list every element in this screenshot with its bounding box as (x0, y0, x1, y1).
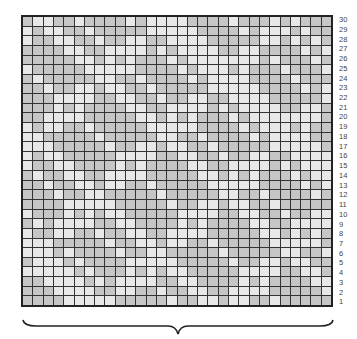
chart-cell (260, 84, 269, 93)
chart-cell (54, 200, 63, 209)
chart-cell (229, 210, 238, 219)
chart-cell (136, 133, 145, 142)
chart-cell (23, 248, 32, 257)
chart-cell (239, 200, 248, 209)
chart-cell (126, 65, 135, 74)
chart-cell (322, 258, 331, 267)
chart-cell (301, 104, 310, 113)
chart-cell (322, 181, 331, 190)
chart-cell (23, 210, 32, 219)
chart-cell (136, 190, 145, 199)
chart-cell (95, 56, 104, 65)
chart-cell (44, 287, 53, 296)
chart-cell (219, 65, 228, 74)
chart-cell (75, 190, 84, 199)
chart-cell (281, 219, 290, 228)
chart-cell (239, 296, 248, 305)
chart-cell (33, 219, 42, 228)
chart-cell (33, 56, 42, 65)
chart-cell (270, 161, 279, 170)
chart-cell (188, 239, 197, 248)
chart-cell (105, 200, 114, 209)
row-number: 21 (339, 103, 357, 113)
chart-cell (167, 75, 176, 84)
chart-cell (147, 113, 156, 122)
chart-cell (311, 75, 320, 84)
chart-cell (136, 36, 145, 45)
chart-cell (322, 152, 331, 161)
chart-cell (75, 113, 84, 122)
chart-cell (167, 94, 176, 103)
chart-cell (54, 239, 63, 248)
chart-cell (126, 133, 135, 142)
chart-cell (23, 142, 32, 151)
chart-cell (23, 190, 32, 199)
chart-cell (136, 104, 145, 113)
chart-cell (229, 123, 238, 132)
chart-cell (54, 277, 63, 286)
chart-cell (116, 84, 125, 93)
chart-cell (198, 267, 207, 276)
chart-cell (198, 248, 207, 257)
chart-cell (219, 113, 228, 122)
chart-cell (75, 36, 84, 45)
chart-cell (64, 219, 73, 228)
chart-cell (33, 210, 42, 219)
chart-cell (33, 113, 42, 122)
chart-cell (95, 94, 104, 103)
chart-cell (198, 190, 207, 199)
chart-cell (167, 113, 176, 122)
chart-cell (250, 27, 259, 36)
chart-cell (260, 181, 269, 190)
chart-cell (75, 296, 84, 305)
chart-cell (208, 36, 217, 45)
chart-cell (291, 36, 300, 45)
chart-cell (44, 46, 53, 55)
chart-cell (95, 152, 104, 161)
chart-cell (311, 277, 320, 286)
chart-cell (198, 84, 207, 93)
chart-cell (44, 123, 53, 132)
chart-cell (64, 248, 73, 257)
chart-cell (136, 171, 145, 180)
chart-cell (44, 248, 53, 257)
chart-cell (291, 46, 300, 55)
chart-cell (147, 287, 156, 296)
chart-cell (322, 248, 331, 257)
chart-cell (178, 94, 187, 103)
chart-cell (136, 248, 145, 257)
row-number: 14 (339, 171, 357, 181)
chart-cell (188, 152, 197, 161)
chart-cell (105, 181, 114, 190)
chart-cell (64, 56, 73, 65)
chart-cell (167, 267, 176, 276)
chart-cell (311, 181, 320, 190)
chart-cell (33, 296, 42, 305)
chart-cell (23, 133, 32, 142)
chart-cell (116, 210, 125, 219)
chart-cell (208, 152, 217, 161)
chart-cell (157, 287, 166, 296)
chart-cell (105, 133, 114, 142)
chart-cell (54, 56, 63, 65)
chart-cell (23, 181, 32, 190)
chart-cell (322, 239, 331, 248)
chart-cell (188, 277, 197, 286)
chart-cell (219, 17, 228, 26)
chart-cell (116, 152, 125, 161)
chart-cell (105, 104, 114, 113)
chart-cell (157, 181, 166, 190)
chart-cell (64, 94, 73, 103)
chart-cell (33, 287, 42, 296)
chart-cell (95, 258, 104, 267)
chart-cell (281, 56, 290, 65)
chart-cell (301, 181, 310, 190)
chart-cell (219, 133, 228, 142)
chart-cell (95, 210, 104, 219)
chart-cell (167, 296, 176, 305)
chart-cell (270, 65, 279, 74)
chart-cell (33, 104, 42, 113)
chart-cell (136, 123, 145, 132)
chart-cell (167, 200, 176, 209)
chart-cell (167, 239, 176, 248)
